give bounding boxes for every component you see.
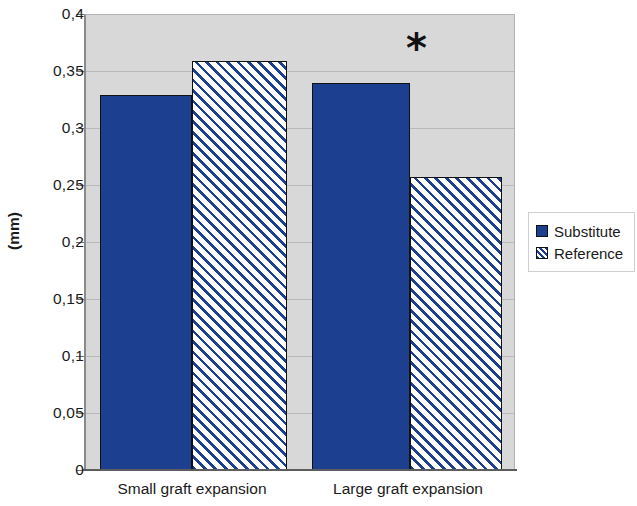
legend-item-reference: Reference: [536, 242, 629, 264]
y-tick-label: 0,3: [12, 119, 84, 137]
y-tick-label: 0,15: [12, 290, 84, 308]
legend-solid-swatch-icon: [536, 225, 548, 237]
y-axis-title: (mm): [5, 201, 23, 261]
bar-large-graft-expansion-substitute: [312, 83, 410, 470]
gridline: [86, 71, 514, 72]
bar-chart: 0,4 0,35 0,3 0,25 0,2 0,15 0,1 0,05 0 (m…: [0, 0, 637, 506]
legend: Substitute Reference: [528, 212, 635, 272]
legend-item-label: Reference: [554, 245, 623, 262]
y-tick-label: 0,25: [12, 176, 84, 194]
y-tick-label: 0,05: [12, 404, 84, 422]
y-tick-label: 0,35: [12, 62, 84, 80]
legend-hatched-swatch-icon: [536, 247, 548, 259]
x-axis-line: [82, 469, 517, 471]
y-tick-label: 0: [12, 461, 84, 479]
bar-small-graft-expansion-substitute: [100, 95, 192, 470]
legend-item-label: Substitute: [554, 223, 621, 240]
y-tick-label: 0,1: [12, 347, 84, 365]
bar-large-graft-expansion-reference: [410, 177, 502, 470]
legend-item-substitute: Substitute: [536, 220, 629, 242]
y-axis: 0,4 0,35 0,3 0,25 0,2 0,15 0,1 0,05 0 (m…: [0, 0, 84, 506]
significance-asterisk: *: [406, 28, 427, 68]
x-axis-category-label-small-graft-expansion: Small graft expansion: [84, 480, 300, 498]
plot-area: [84, 14, 515, 470]
bar-small-graft-expansion-reference: [192, 61, 287, 471]
x-axis-category-label-large-graft-expansion: Large graft expansion: [300, 480, 516, 498]
y-tick-label: 0,4: [12, 5, 84, 23]
